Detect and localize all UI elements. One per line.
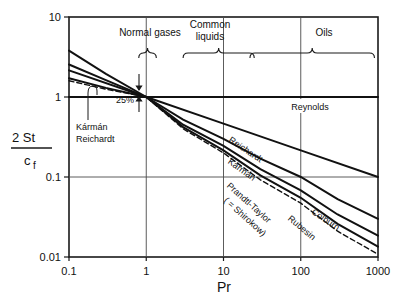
x-tick-label-10: 10 bbox=[217, 265, 229, 277]
label-karman-reichardt-1: Kármán bbox=[76, 122, 108, 132]
chart-container: 0.11101001000 1010.10.01 Normal gasesCom… bbox=[0, 0, 403, 299]
x-tick-label-1000: 1000 bbox=[366, 265, 390, 277]
label-normal-gases: Normal gases bbox=[119, 27, 181, 38]
y-tick-label-0.1: 0.1 bbox=[46, 171, 61, 183]
x-tick-label-100: 100 bbox=[292, 265, 310, 277]
curve-label-reynolds: Reynolds bbox=[291, 102, 329, 112]
x-tick-label-0.1: 0.1 bbox=[61, 265, 76, 277]
y-axis-denominator-subscript: f bbox=[33, 160, 36, 171]
x-tick-label-1: 1 bbox=[143, 265, 149, 277]
y-tick-label-1: 1 bbox=[55, 91, 61, 103]
y-axis-denominator: c bbox=[24, 153, 31, 168]
y-tick-label-0.01: 0.01 bbox=[40, 251, 61, 263]
y-tick-label-10: 10 bbox=[49, 11, 61, 23]
y-axis-numerator: 2 St bbox=[12, 130, 36, 145]
label-percent-gap: 25% bbox=[116, 95, 134, 105]
label-common-liquids-2: liquids bbox=[196, 31, 224, 42]
stanton-prandtl-chart: 0.11101001000 1010.10.01 Normal gasesCom… bbox=[0, 0, 403, 299]
label-karman-reichardt-2: Reichardt bbox=[76, 134, 115, 144]
x-axis-title: Pr bbox=[217, 279, 231, 295]
label-common-liquids-1: Common bbox=[190, 19, 231, 30]
label-oils: Oils bbox=[315, 27, 332, 38]
